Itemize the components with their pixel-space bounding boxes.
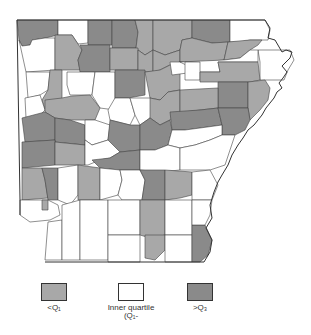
county: [55, 142, 85, 165]
county: [62, 200, 80, 260]
county: [185, 62, 200, 80]
county: [218, 108, 250, 135]
county: [67, 72, 95, 95]
legend-label-inner: Inner quartile (Q₁-: [106, 304, 156, 320]
county: [192, 225, 212, 262]
legend-item-low: <Q₁: [34, 283, 74, 312]
county: [192, 170, 218, 200]
county: [20, 200, 60, 222]
county: [218, 82, 248, 108]
county: [140, 200, 165, 238]
county: [22, 112, 55, 142]
county: [115, 70, 145, 98]
county: [88, 20, 112, 45]
legend-label-high: >Q₃: [180, 304, 220, 312]
county: [165, 235, 192, 262]
legend-item-high: >Q₃: [180, 283, 220, 312]
legend-swatch-inner: [118, 283, 144, 301]
legend-label-low: <Q₁: [34, 304, 74, 312]
county: [45, 220, 62, 260]
county: [45, 95, 100, 120]
county: [230, 20, 270, 42]
legend-swatch-low: [41, 283, 67, 301]
arkansas-county-map: [0, 0, 311, 280]
county: [248, 80, 270, 120]
county: [112, 20, 138, 48]
county: [22, 140, 55, 168]
legend-swatch-high: [187, 283, 213, 301]
county: [110, 48, 138, 70]
county: [258, 50, 294, 80]
county: [42, 200, 48, 210]
county: [80, 200, 108, 260]
county: [78, 45, 110, 72]
map-legend: <Q₁ Inner quartile (Q₁- >Q₃: [0, 283, 311, 335]
county: [58, 165, 78, 205]
county: [192, 200, 212, 225]
county: [165, 170, 192, 200]
legend-item-inner: Inner quartile (Q₁-: [106, 283, 156, 320]
county: [55, 118, 85, 145]
county: [145, 235, 165, 260]
county: [78, 165, 100, 200]
county: [118, 170, 145, 200]
county: [165, 200, 192, 235]
county: [108, 235, 140, 262]
county: [108, 200, 140, 235]
